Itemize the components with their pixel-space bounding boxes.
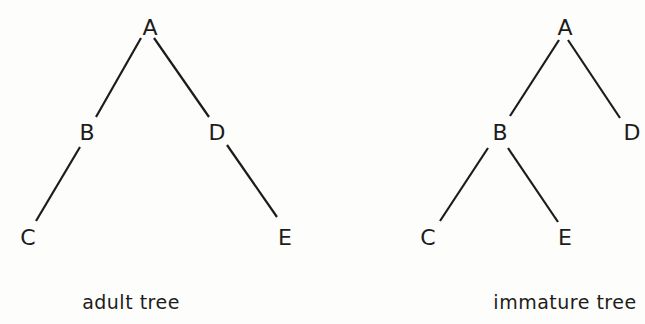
immature-tree-caption: immature tree [493, 291, 636, 313]
immature-tree: A B D C E immature tree [420, 15, 640, 314]
node-d: D [209, 120, 226, 145]
node-e: E [278, 225, 292, 250]
edge-d-e [227, 145, 277, 217]
node-c: C [420, 225, 435, 250]
adult-tree: A B D C E adult tree [20, 15, 292, 314]
node-c: C [20, 225, 35, 250]
node-d: D [624, 120, 641, 145]
edge-a-b [96, 38, 141, 117]
node-b: B [492, 120, 507, 145]
edge-b-c [440, 148, 488, 221]
tree-diagram: A B D C E adult tree A B D C E immature … [0, 0, 645, 324]
edge-a-d [154, 38, 209, 117]
node-b: B [79, 120, 94, 145]
node-a: A [142, 15, 157, 40]
node-a: A [557, 15, 572, 40]
edge-a-d [568, 40, 620, 118]
node-e: E [558, 225, 572, 250]
adult-tree-caption: adult tree [82, 291, 180, 313]
tree-diagram-svg: A B D C E adult tree A B D C E immature … [0, 0, 645, 324]
edge-b-e [508, 148, 558, 222]
edge-a-b [510, 40, 559, 116]
edge-b-c [36, 147, 80, 221]
